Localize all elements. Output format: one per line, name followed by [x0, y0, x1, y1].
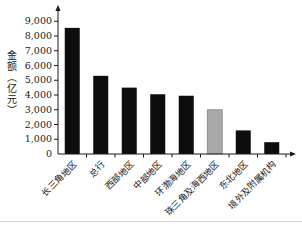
y-tick-label: 1,000	[25, 133, 52, 144]
bar-chart-figure: 金额（亿元） 01,0002,0003,0004,0005,0006,0007,…	[0, 0, 302, 227]
y-tick-label: 4,000	[25, 89, 52, 100]
y-tick-label: 5,000	[25, 74, 52, 85]
x-axis-arrow-icon	[290, 151, 296, 156]
x-category-label: 总行	[87, 159, 108, 180]
x-category-label: 境外及附属机构	[226, 159, 278, 211]
bar-chart-canvas: 01,0002,0003,0004,0005,0006,0007,0008,00…	[0, 0, 302, 227]
figure-bottom-rule	[0, 221, 302, 222]
bar	[65, 28, 80, 154]
bar	[93, 76, 108, 154]
bar	[179, 96, 194, 154]
x-category-label: 长三角地区	[39, 159, 79, 199]
y-tick-label: 7,000	[25, 45, 52, 56]
y-tick-label: 3,000	[25, 104, 52, 115]
y-axis-arrow-icon	[55, 5, 60, 11]
y-tick-label: 6,000	[25, 60, 52, 71]
x-category-label: 珠三角及海西地区	[162, 159, 221, 218]
x-category-label: 西部地区	[102, 159, 135, 192]
bar	[150, 94, 165, 154]
y-tick-label: 2,000	[25, 119, 52, 130]
y-tick-label: 9,000	[25, 15, 52, 26]
bar	[122, 88, 137, 154]
bar	[236, 130, 251, 154]
y-tick-label: 8,000	[25, 30, 52, 41]
bar	[264, 142, 279, 154]
bar	[207, 110, 222, 154]
y-tick-label: 0	[46, 148, 52, 159]
